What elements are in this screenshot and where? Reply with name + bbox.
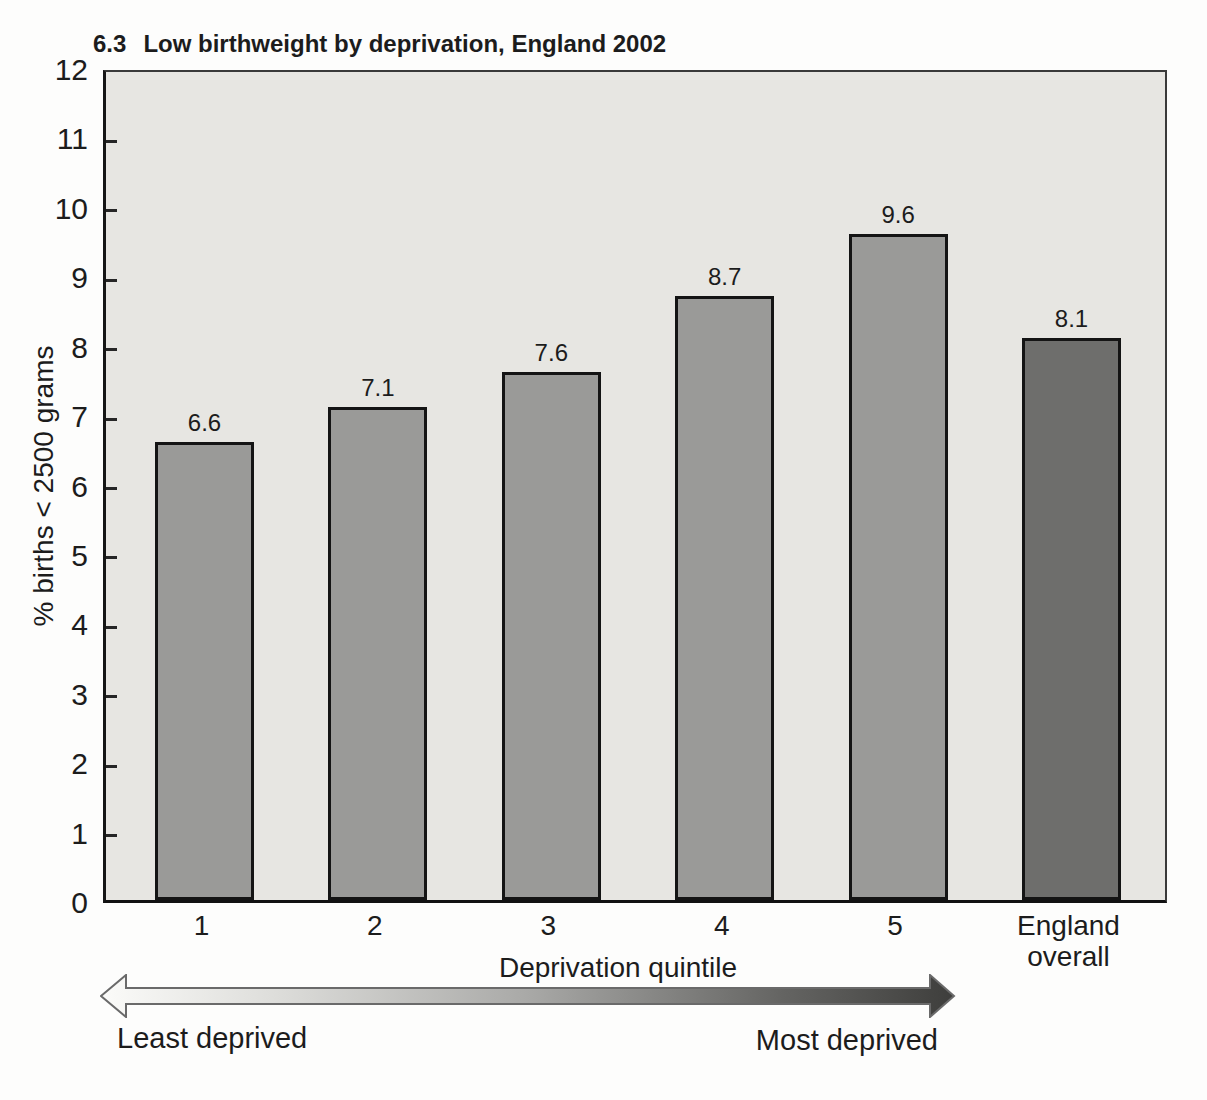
y-tick-mark	[106, 279, 117, 282]
y-tick-mark	[106, 556, 117, 559]
bar-value-label: 8.1	[997, 307, 1146, 331]
x-tick-label-2: 2	[288, 910, 462, 941]
deprivation-gradient-arrow	[100, 974, 956, 1018]
most-deprived-label: Most deprived	[756, 1024, 938, 1056]
y-tick-mark	[106, 209, 117, 212]
double-arrow-shape	[101, 975, 954, 1017]
figure-title-text: Low birthweight by deprivation, England …	[143, 30, 666, 58]
y-tick-label-2: 2	[0, 749, 88, 779]
y-tick-label-9: 9	[0, 263, 88, 293]
y-tick-label-6: 6	[0, 472, 88, 502]
figure-number: 6.3	[93, 30, 126, 58]
scanned-page: 6.3 Low birthweight by deprivation, Engl…	[0, 0, 1207, 1100]
y-tick-label-11: 11	[0, 124, 88, 154]
y-tick-mark	[106, 140, 117, 143]
bar-value-label: 7.6	[477, 341, 626, 365]
bar-value-label: 6.6	[130, 411, 279, 435]
bar-3	[502, 372, 601, 900]
bar-england-overall	[1022, 338, 1121, 900]
y-tick-mark	[106, 765, 117, 768]
x-tick-label-england-overall: England overall	[982, 910, 1156, 972]
y-tick-label-3: 3	[0, 680, 88, 710]
bar-1	[155, 442, 254, 900]
y-tick-label-4: 4	[0, 610, 88, 640]
y-tick-mark	[106, 834, 117, 837]
x-tick-label-4: 4	[635, 910, 809, 941]
y-tick-label-10: 10	[0, 194, 88, 224]
x-tick-label-5: 5	[808, 910, 982, 941]
y-tick-mark	[106, 695, 117, 698]
y-tick-label-1: 1	[0, 819, 88, 849]
x-tick-label-3: 3	[461, 910, 635, 941]
bar-2	[328, 407, 427, 900]
bar-value-label: 8.7	[650, 265, 799, 289]
y-tick-mark	[106, 348, 117, 351]
plot-area: 6.67.17.68.79.68.1	[103, 70, 1167, 903]
y-tick-label-8: 8	[0, 333, 88, 363]
y-tick-mark	[106, 487, 117, 490]
bar-5	[849, 234, 948, 900]
bar-4	[675, 296, 774, 900]
least-deprived-label: Least deprived	[117, 1022, 307, 1054]
y-tick-label-12: 12	[0, 55, 88, 85]
x-tick-label-1: 1	[115, 910, 289, 941]
bar-value-label: 9.6	[824, 203, 973, 227]
figure-title: 6.3 Low birthweight by deprivation, Engl…	[93, 30, 666, 58]
y-tick-label-7: 7	[0, 402, 88, 432]
y-tick-mark	[106, 626, 117, 629]
y-tick-labels: 0123456789101112	[0, 0, 95, 1000]
y-tick-mark	[106, 418, 117, 421]
bar-value-label: 7.1	[303, 376, 452, 400]
y-tick-label-5: 5	[0, 541, 88, 571]
